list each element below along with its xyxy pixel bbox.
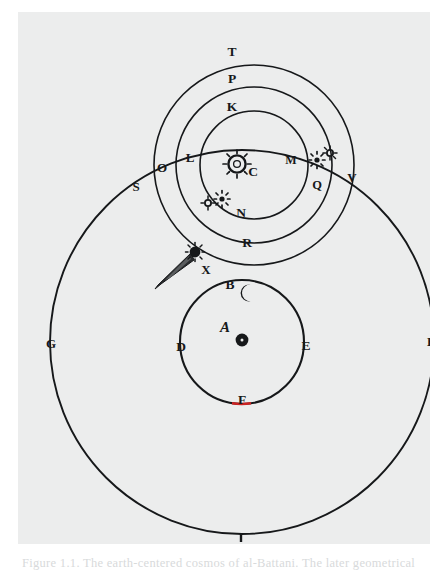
figure-caption: Figure 1.1. The earth-centered cosmos of… — [22, 556, 432, 571]
label-P: P — [228, 71, 236, 86]
label-C: C — [248, 164, 258, 179]
astronomical-diagram: T P K C M Q V N R L O S X B A D E — [18, 12, 430, 544]
label-E: E — [301, 338, 310, 353]
engraving-plate: T P K C M Q V N R L O S X B A D E — [18, 12, 430, 544]
label-T: T — [227, 44, 236, 59]
planet-star-symbol — [309, 152, 325, 169]
label-I: I — [238, 541, 243, 544]
label-R: R — [242, 235, 252, 250]
sun-symbol — [223, 150, 251, 178]
scanned-plate-background: T P K C M Q V N R L O S X B A D E — [18, 12, 430, 544]
label-M: M — [285, 153, 296, 167]
planet-star-symbol — [214, 191, 230, 208]
planet-star-symbol — [323, 146, 337, 160]
label-K: K — [227, 99, 238, 114]
figure-page: T P K C M Q V N R L O S X B A D E — [0, 0, 448, 582]
label-G: G — [46, 336, 56, 351]
moon-crescent — [241, 284, 251, 301]
label-S: S — [132, 179, 139, 194]
label-X: X — [201, 262, 211, 277]
label-V: V — [347, 170, 357, 185]
label-O: O — [157, 160, 167, 175]
label-F: F — [238, 392, 246, 407]
label-Q: Q — [312, 178, 322, 192]
planet-star-symbol — [201, 196, 215, 210]
label-L: L — [186, 150, 195, 165]
label-N: N — [236, 205, 246, 220]
label-H: H — [427, 334, 430, 349]
label-A: A — [219, 319, 230, 335]
comet-with-tail — [155, 243, 205, 290]
label-B: B — [225, 277, 234, 292]
label-D: D — [176, 339, 186, 354]
earth-dot — [236, 334, 249, 347]
